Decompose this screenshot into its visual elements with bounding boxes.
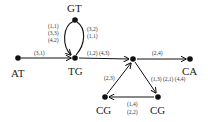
node-ca <box>187 56 193 62</box>
label-tg: TG <box>68 65 83 77</box>
edge-label-tg-hub: (1,2) (4,3) <box>87 50 110 57</box>
label-cg-right: CG <box>150 104 165 116</box>
label-cg-left: CG <box>96 104 111 116</box>
edge-label-cg-cg-1: (1,4) <box>127 101 138 108</box>
edge-label-cg-cg-2: (2,2) <box>127 109 138 116</box>
graph-diagram: AT TG GT CA CG CG (3,1) (1,1) (3,3) (4,2… <box>0 0 208 122</box>
node-at <box>15 55 21 61</box>
node-cg-left <box>102 94 108 100</box>
edge-label-gt-tg-2: (3,3) <box>48 30 59 37</box>
edge-gt-tg-loop-left <box>65 21 74 55</box>
edge-label-tg-gt-1: (3,2) <box>87 26 98 33</box>
edge-tg-gt-loop-right <box>76 22 84 55</box>
label-at: AT <box>11 67 25 79</box>
node-cg-right <box>155 94 161 100</box>
edge-label-hub-cg: (1,3) (2,1) (4,4) <box>151 76 186 83</box>
edge-label-tg-gt-2: (1,1) <box>87 33 98 40</box>
node-tg <box>72 55 78 61</box>
label-gt: GT <box>67 2 82 14</box>
edge-tg-hub <box>79 58 129 59</box>
edge-label-gt-tg-3: (4,2) <box>48 37 59 44</box>
edge-label-cg-hub: (2,3) <box>104 75 115 82</box>
edge-label-gt-tg-1: (1,1) <box>48 23 59 30</box>
node-hub <box>130 56 136 62</box>
node-gt <box>72 17 78 23</box>
edge-label-at-tg: (3,1) <box>34 50 45 57</box>
edge-label-hub-ca: (2,4) <box>152 50 163 57</box>
